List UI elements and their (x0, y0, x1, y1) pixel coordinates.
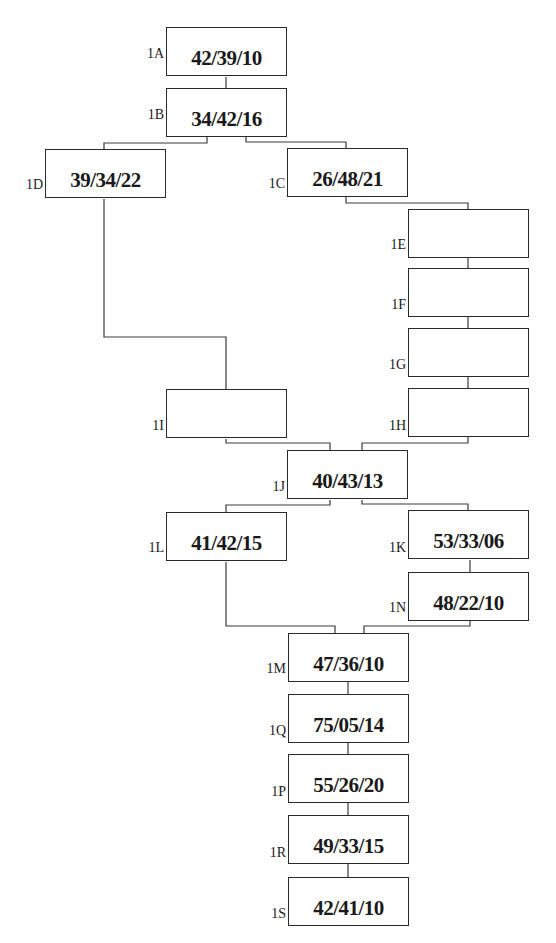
node-value: 48/22/10 (409, 593, 528, 614)
node-1C: 26/48/21 (287, 148, 408, 197)
node-label-1S: 1S (256, 907, 286, 921)
edge-1I-1J (226, 439, 330, 450)
node-label-1R: 1R (256, 846, 286, 860)
node-label-1M: 1M (256, 662, 286, 676)
node-value: 40/43/13 (288, 471, 407, 492)
node-1S: 42/41/10 (288, 877, 409, 926)
node-1Q: 75/05/14 (288, 694, 409, 743)
node-value: 34/42/16 (167, 109, 286, 130)
node-label-1L: 1L (134, 541, 164, 555)
node-label-1H: 1H (376, 419, 406, 433)
node-1A: 42/39/10 (166, 27, 287, 76)
node-label-1F: 1F (376, 298, 406, 312)
node-1B: 34/42/16 (166, 88, 287, 137)
node-label-1G: 1G (376, 358, 406, 372)
node-1H (408, 388, 529, 437)
edge-1C-1E (346, 197, 468, 209)
node-1I (166, 389, 287, 438)
node-1E (408, 209, 529, 258)
node-value: 41/42/15 (167, 533, 286, 554)
connector-lines (0, 0, 556, 943)
node-value: 55/26/20 (289, 775, 408, 796)
node-value: 49/33/15 (289, 836, 408, 857)
node-value: 42/41/10 (289, 898, 408, 919)
edge-1J-1K (362, 500, 468, 510)
node-label-1C: 1C (255, 177, 285, 191)
node-label-1P: 1P (256, 785, 286, 799)
node-label-1Q: 1Q (256, 724, 286, 738)
node-value: 47/36/10 (289, 654, 408, 675)
edge-1D-1I (104, 199, 226, 389)
edge-1J-1L (226, 500, 330, 512)
node-1R: 49/33/15 (288, 815, 409, 864)
node-1N: 48/22/10 (408, 572, 529, 621)
node-label-1D: 1D (13, 178, 43, 192)
node-label-1B: 1B (134, 108, 164, 122)
edge-1B-1C (246, 137, 346, 148)
edge-1N-1M (364, 621, 470, 633)
node-value: 53/33/06 (409, 531, 528, 552)
node-value: 75/05/14 (289, 715, 408, 736)
node-label-1I: 1I (134, 419, 164, 433)
node-value: 26/48/21 (288, 169, 407, 190)
node-1F (408, 268, 529, 317)
node-1G (408, 328, 529, 377)
node-1P: 55/26/20 (288, 754, 409, 803)
node-label-1J: 1J (255, 480, 285, 494)
node-label-1A: 1A (134, 47, 164, 61)
edge-1L-1M (226, 562, 335, 633)
node-value: 42/39/10 (167, 48, 286, 69)
node-1L: 41/42/15 (166, 512, 287, 561)
flowchart-canvas: 42/39/10 1A 34/42/16 1B 39/34/22 1D 26/4… (0, 0, 556, 943)
node-value: 39/34/22 (46, 170, 165, 191)
node-label-1E: 1E (376, 238, 406, 252)
node-label-1K: 1K (376, 541, 406, 555)
node-label-1N: 1N (376, 601, 406, 615)
node-1D: 39/34/22 (45, 149, 166, 198)
node-1M: 47/36/10 (288, 633, 409, 682)
edge-1H-1J (362, 437, 468, 450)
node-1K: 53/33/06 (408, 510, 529, 559)
node-1J: 40/43/13 (287, 450, 408, 499)
edge-1B-1D (104, 137, 207, 149)
